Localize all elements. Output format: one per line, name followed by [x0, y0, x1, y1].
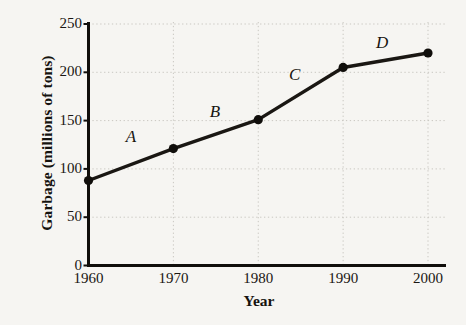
x-tick-value: 1980 — [228, 270, 288, 287]
segment-label-d: D — [376, 33, 388, 53]
x-axis-tick-label: 1980 — [228, 270, 288, 287]
x-axis-title: Year — [88, 292, 430, 310]
segment-label-c: C — [289, 65, 300, 85]
x-axis-tick-label: 1960 — [59, 270, 119, 287]
x-axis-tick-label: 1970 — [143, 270, 203, 287]
x-axis-tick-label: 1990 — [313, 270, 373, 287]
data-point-marker — [84, 176, 93, 185]
data-point-marker — [339, 63, 348, 72]
x-axis-tick-label: 2000 — [398, 270, 458, 287]
chart-figure: 050100150200250 19601970198019902000 ABC… — [0, 0, 466, 325]
x-tick-value: 2000 — [398, 270, 458, 287]
y-axis-title: Garbage (millions of tons) — [34, 18, 60, 268]
segment-label-a: A — [126, 127, 136, 147]
x-tick-value: 1960 — [59, 270, 119, 287]
x-tick-value: 1970 — [143, 270, 203, 287]
data-point-marker — [169, 144, 178, 153]
x-tick-value: 1990 — [313, 270, 373, 287]
segment-label-b: B — [210, 102, 220, 122]
data-point-marker — [254, 115, 263, 124]
data-point-marker — [423, 48, 432, 57]
horizontal-gridlines — [89, 24, 447, 217]
